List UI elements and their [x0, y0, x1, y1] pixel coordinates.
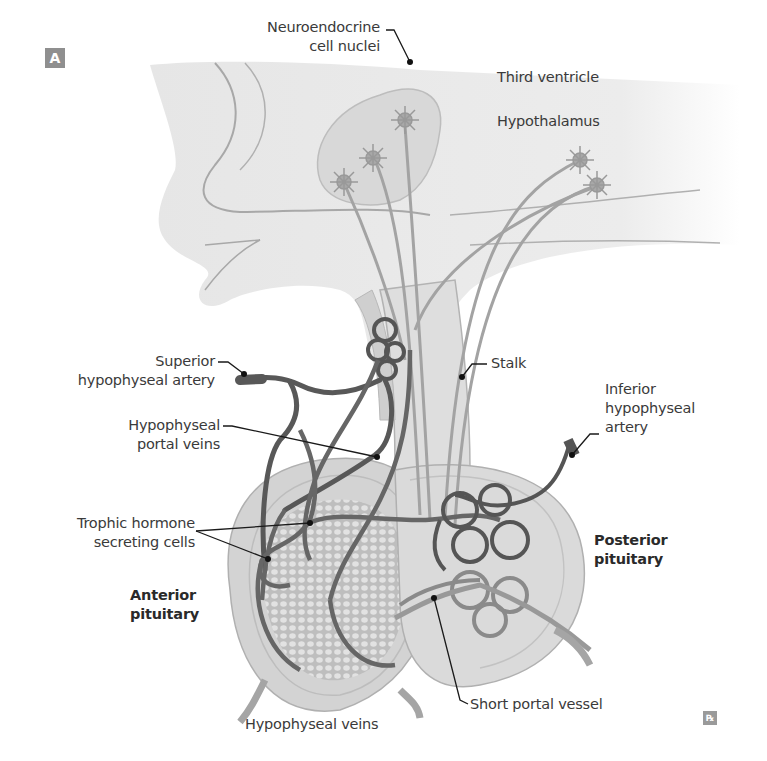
label-hypophyseal-portal-veins: Hypophyseal portal veins — [95, 416, 220, 454]
neuron-icon — [359, 144, 387, 172]
neuron-icon — [583, 171, 611, 199]
label-hypothalamus: Hypothalamus — [497, 112, 600, 131]
label-line: Anterior — [130, 586, 199, 605]
label-line: portal veins — [95, 435, 220, 454]
label-hypophyseal-veins: Hypophyseal veins — [245, 715, 378, 734]
label-line: Neuroendocrine — [255, 18, 380, 37]
label-line: hypophyseal — [605, 399, 695, 418]
label-line: artery — [605, 418, 695, 437]
label-line: Inferior — [605, 380, 695, 399]
label-third-ventricle: Third ventricle — [497, 68, 599, 87]
label-short-portal-vessel: Short portal vessel — [470, 695, 603, 714]
label-anterior-pituitary: Anterior pituitary — [130, 586, 199, 624]
posterior-pituitary — [395, 465, 584, 687]
label-neuroendocrine-cell-nuclei: Neuroendocrine cell nuclei — [255, 18, 380, 56]
label-posterior-pituitary: Posterior pituitary — [594, 531, 667, 569]
panel-label-badge: A — [45, 48, 65, 68]
neuron-icon — [330, 168, 358, 196]
label-line: Hypophyseal — [95, 416, 220, 435]
neuron-icon — [391, 106, 419, 134]
neuron-icon — [566, 146, 594, 174]
label-line: Trophic hormone — [40, 514, 195, 533]
label-stalk: Stalk — [491, 354, 526, 373]
rx-logo-icon: ℞ — [703, 711, 717, 725]
label-line: hypophyseal artery — [60, 371, 215, 390]
label-inferior-hypophyseal-artery: Inferior hypophyseal artery — [605, 380, 695, 437]
label-line: cell nuclei — [255, 37, 380, 56]
label-superior-hypophyseal-artery: Superior hypophyseal artery — [60, 352, 215, 390]
pituitary-diagram: A Neuroendocrine cell nuclei Third ventr… — [0, 0, 767, 761]
label-line: Superior — [60, 352, 215, 371]
label-line: pituitary — [130, 605, 199, 624]
label-trophic-hormone-secreting-cells: Trophic hormone secreting cells — [40, 514, 195, 552]
label-line: Posterior — [594, 531, 667, 550]
label-line: pituitary — [594, 550, 667, 569]
label-line: secreting cells — [40, 533, 195, 552]
